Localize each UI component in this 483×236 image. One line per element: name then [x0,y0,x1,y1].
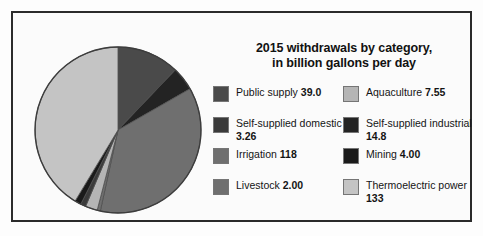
legend-item-mining[interactable]: Mining 4.00 [343,147,483,164]
legend-item-self-supplied-industrial[interactable]: Self-supplied industrial 14.8 [343,116,483,142]
legend-item-self-supplied-domestic[interactable]: Self-supplied domestic 3.26 [213,116,343,142]
swatch-livestock [213,179,229,195]
chart-title: 2015 withdrawals by category, in billion… [205,41,483,71]
swatch-mining [343,148,359,164]
legend-value-3: 14.8 [366,130,386,142]
legend-label-2: Self-supplied domestic 3.26 [236,116,343,142]
pie-chart-svg [34,35,202,225]
swatch-self-supplied-domestic [213,117,229,133]
legend-item-irrigation[interactable]: Irrigation 118 [213,147,343,164]
legend-value-5: 4.00 [400,148,420,160]
swatch-irrigation [213,148,229,164]
legend-panel: 2015 withdrawals by category, in billion… [205,27,483,232]
legend-value-4: 118 [280,148,297,160]
pie-chart-area [34,35,202,225]
legend-item-aquaculture[interactable]: Aquaculture 7.55 [343,85,483,102]
legend-label-4: Irrigation 118 [236,147,297,161]
chart-title-line-2: in billion gallons per day [205,56,483,71]
chart-legend: Public supply 39.0Aquaculture 7.55Self-s… [213,85,483,209]
legend-value-7: 133 [366,192,384,204]
swatch-public-supply [213,86,229,102]
legend-label-3: Self-supplied industrial 14.8 [366,116,483,142]
swatch-self-supplied-industrial [343,117,359,133]
legend-item-livestock[interactable]: Livestock 2.00 [213,178,343,195]
legend-label-6: Livestock 2.00 [236,178,303,192]
legend-label-5: Mining 4.00 [366,147,420,161]
swatch-aquaculture [343,86,359,102]
legend-value-6: 2.00 [283,179,303,191]
legend-value-1: 7.55 [425,86,445,98]
legend-value-2: 3.26 [236,130,256,142]
legend-value-0: 39.0 [301,86,321,98]
figure-frame: 2015 withdrawals by category, in billion… [11,11,472,222]
swatch-thermoelectric-power [343,179,359,195]
legend-label-0: Public supply 39.0 [236,85,321,99]
chart-title-line-1: 2015 withdrawals by category, [205,41,483,56]
legend-label-1: Aquaculture 7.55 [366,85,445,99]
legend-item-public-supply[interactable]: Public supply 39.0 [213,85,343,102]
legend-label-7: Thermoelectric power 133 [366,178,483,204]
pie-chart-figure: 2015 withdrawals by category, in billion… [0,0,483,236]
legend-item-thermoelectric-power[interactable]: Thermoelectric power 133 [343,178,483,204]
